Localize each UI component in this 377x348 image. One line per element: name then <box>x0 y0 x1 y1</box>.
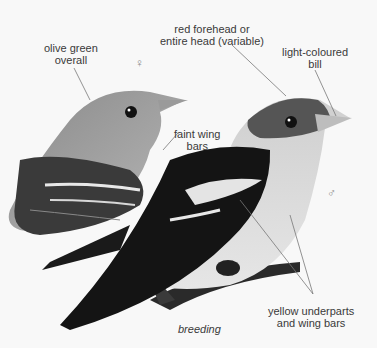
label-olive-green: olive green overall <box>44 42 98 66</box>
label-yellow-underparts: yellow underparts and wing bars <box>268 305 354 329</box>
label-line: faint wing <box>174 128 220 140</box>
label-line: bars <box>174 140 220 152</box>
label-red-forehead: red forehead or entire head (variable) <box>160 23 264 47</box>
male-symbol-icon: ♂ <box>327 186 336 200</box>
female-symbol-icon: ♀ <box>135 56 144 70</box>
label-line: yellow underparts <box>268 305 354 317</box>
label-line: bill <box>282 58 348 70</box>
label-line: entire head (variable) <box>160 35 264 47</box>
label-light-bill: light-coloured bill <box>282 46 348 70</box>
caption-breeding: breeding <box>178 323 221 335</box>
label-line: olive green <box>44 42 98 54</box>
label-line: overall <box>44 54 98 66</box>
label-line: red forehead or <box>160 23 264 35</box>
label-line: and wing bars <box>268 317 354 329</box>
label-faint-wing-bars: faint wing bars <box>174 128 220 152</box>
label-line: light-coloured <box>282 46 348 58</box>
